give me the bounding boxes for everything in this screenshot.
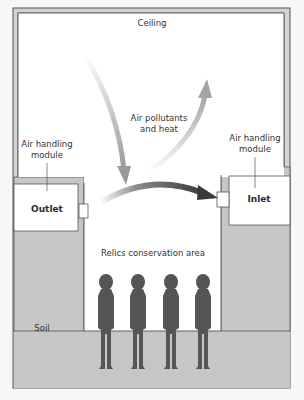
outlet-port — [79, 204, 88, 218]
right-module-label-line1: Air handling — [220, 133, 290, 144]
soil-label: Soil — [30, 323, 54, 334]
air-flow-label-line1: Air pollutants — [124, 113, 194, 124]
conservation-area-label: Relics conservation area — [92, 248, 214, 259]
right-module-label-line2: module — [220, 144, 290, 155]
air-flow-label-line2: and heat — [124, 124, 194, 135]
left-module-label-line2: module — [12, 150, 82, 161]
air-flow-label: Air pollutants and heat — [124, 113, 194, 135]
diagram-canvas: Ceiling Air pollutants and heat Air hand… — [0, 0, 304, 400]
left-module-label: Air handling module — [12, 139, 82, 161]
inlet-port — [217, 192, 229, 207]
outlet-label: Outlet — [22, 204, 72, 215]
left-module-label-line1: Air handling — [12, 139, 82, 150]
ceiling-label: Ceiling — [122, 18, 182, 29]
right-module-label: Air handling module — [220, 133, 290, 155]
inlet-label: Inlet — [234, 194, 284, 205]
